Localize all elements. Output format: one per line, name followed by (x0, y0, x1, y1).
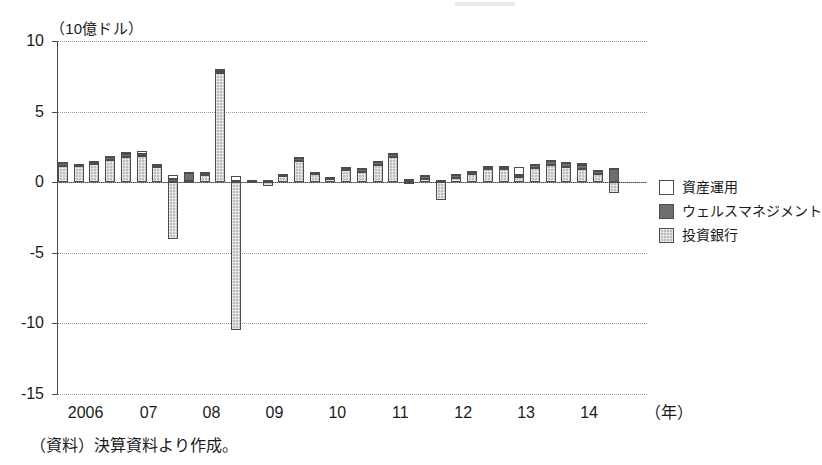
chart-legend: 資産運用ウェルスマネジメント投資銀行 (659, 180, 799, 252)
x-tick-label: 12 (441, 404, 485, 422)
bar-group (278, 41, 288, 394)
bar-segment-asset (310, 172, 320, 174)
y-tick-label: 10 (2, 33, 44, 49)
bar-segment-ibank (609, 182, 619, 193)
bar-segment-asset (483, 166, 493, 168)
bar-segment-ibank (514, 177, 524, 182)
x-tick-label: 10 (315, 404, 359, 422)
plot-area (57, 41, 647, 394)
bar-group (168, 41, 178, 394)
bar-segment-asset (530, 164, 540, 166)
bar-group (546, 41, 556, 394)
y-tick-label: 5 (2, 104, 44, 120)
bar-segment-asset (325, 177, 335, 179)
bar-group (74, 41, 84, 394)
bar-group (593, 41, 603, 394)
bar-segment-asset (577, 163, 587, 165)
bar-segment-ibank (467, 174, 477, 182)
bar-segment-ibank (137, 156, 147, 182)
bar-group (436, 41, 446, 394)
bar-segment-asset (184, 172, 194, 174)
bar-group (483, 41, 493, 394)
legend-swatch-icon (659, 204, 674, 219)
bar-segment-wealth (168, 179, 178, 182)
bar-segment-asset (404, 179, 414, 181)
bar-segment-wealth (514, 175, 524, 178)
bar-segment-asset (215, 69, 225, 71)
bar-group (357, 41, 367, 394)
bar-segment-wealth (137, 154, 147, 156)
bar-segment-asset (74, 164, 84, 166)
bar-segment-ibank (121, 157, 131, 182)
y-tick-label: 0 (2, 174, 44, 190)
x-tick-label: 09 (252, 404, 296, 422)
bar-group (341, 41, 351, 394)
legend-swatch-icon (659, 228, 674, 243)
bar-group (58, 41, 68, 394)
bar-segment-ibank (105, 160, 115, 182)
bar-segment-asset (341, 167, 351, 169)
bar-segment-asset (263, 180, 273, 182)
bar-segment-asset (546, 160, 556, 162)
bar-segment-asset (388, 153, 398, 155)
bar-group (420, 41, 430, 394)
bar-segment-asset (593, 170, 603, 172)
bar-segment-ibank (294, 161, 304, 182)
y-tick-label: -5 (2, 245, 44, 261)
bar-segment-asset (105, 156, 115, 158)
bar-group (105, 41, 115, 394)
y-tick-mark (52, 394, 58, 395)
bar-group (89, 41, 99, 394)
bar-segment-ibank (231, 182, 241, 330)
bar-segment-asset (373, 161, 383, 163)
bar-group (467, 41, 477, 394)
bar-group (577, 41, 587, 394)
x-tick-label: 11 (378, 404, 422, 422)
bar-segment-ibank (152, 167, 162, 183)
x-tick-label: 13 (504, 404, 548, 422)
bar-segment-wealth (577, 165, 587, 169)
y-axis-unit-label: （10億ドル） (50, 17, 143, 38)
bar-group (263, 41, 273, 394)
bar-segment-asset (294, 157, 304, 159)
bar-group (561, 41, 571, 394)
bar-group (404, 41, 414, 394)
bar-group (152, 41, 162, 394)
x-axis-unit-label: （年） (645, 404, 693, 422)
bar-segment-asset (451, 174, 461, 176)
legend-label: 資産運用 (682, 180, 738, 195)
bar-group (609, 41, 619, 394)
bar-segment-ibank (373, 165, 383, 183)
bar-segment-asset (278, 174, 288, 176)
y-tick-label: -15 (2, 386, 44, 402)
bar-group (388, 41, 398, 394)
legend-item-wealth: ウェルスマネジメント (659, 204, 799, 219)
bar-segment-ibank (436, 182, 446, 200)
bar-segment-ibank (168, 182, 178, 238)
legend-item-ibank: 投資銀行 (659, 228, 799, 243)
bar-segment-ibank (74, 166, 84, 182)
bar-segment-ibank (577, 169, 587, 182)
bar-group (530, 41, 540, 394)
bar-segment-ibank (58, 166, 68, 182)
bar-segment-asset (499, 166, 509, 168)
bar-group (137, 41, 147, 394)
bar-segment-asset (561, 162, 571, 164)
bar-segment-asset (200, 172, 210, 174)
bar-segment-asset (89, 161, 99, 163)
bar-group (294, 41, 304, 394)
bar-segment-asset (231, 176, 241, 182)
bar-segment-ibank (89, 164, 99, 182)
bar-segment-asset (137, 151, 147, 154)
bar-segment-asset (152, 164, 162, 166)
bar-segment-wealth (184, 173, 194, 181)
legend-label: ウェルスマネジメント (682, 204, 822, 219)
bar-segment-ibank (200, 175, 210, 182)
bar-segment-wealth (609, 169, 619, 182)
bar-segment-ibank (451, 178, 461, 182)
bar-group (184, 41, 194, 394)
bar-segment-asset (514, 167, 524, 175)
x-tick-label: 08 (189, 404, 233, 422)
bar-segment-asset (168, 175, 178, 179)
